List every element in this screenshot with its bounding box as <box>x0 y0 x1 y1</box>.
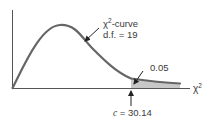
curve-pointer-arrow <box>85 28 99 41</box>
chi-square-chart: χ2-curve d.f. = 19 0.05 χ2 c = 30.14 <box>0 0 212 124</box>
chi-square-curve <box>13 25 181 88</box>
tail-area-label: 0.05 <box>150 62 169 73</box>
critical-value-label: c = 30.14 <box>113 107 152 118</box>
curve-label: χ2-curve <box>103 17 138 29</box>
x-axis-label: χ2 <box>193 82 202 94</box>
df-label: d.f. = 19 <box>103 29 138 40</box>
